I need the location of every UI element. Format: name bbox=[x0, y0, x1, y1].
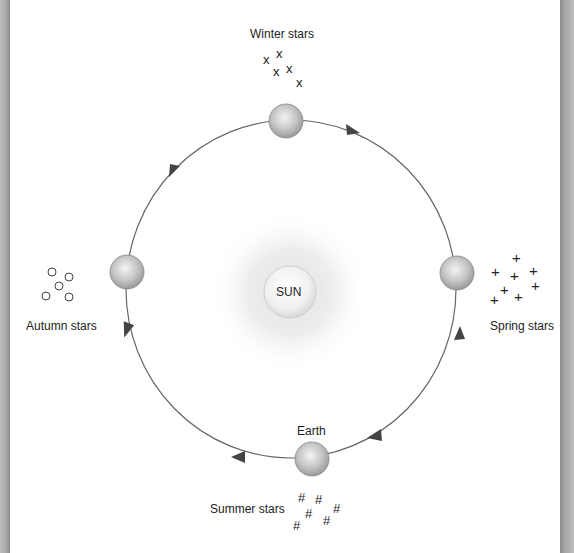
autumn-stars-label: Autumn stars bbox=[26, 319, 97, 333]
earth-autumn-position bbox=[110, 255, 144, 289]
orbit-diagram: xx xx x + +++ ++ ++ ## ## ## bbox=[0, 0, 574, 553]
svg-text:+: + bbox=[531, 277, 540, 294]
earth-winter-position bbox=[269, 104, 303, 138]
svg-text:x: x bbox=[296, 75, 303, 90]
svg-text:+: + bbox=[510, 267, 519, 284]
svg-text:+: + bbox=[500, 281, 509, 298]
svg-text:x: x bbox=[286, 61, 293, 76]
svg-text:+: + bbox=[514, 288, 523, 305]
winter-stars-label: Winter stars bbox=[250, 27, 314, 41]
sun-label: SUN bbox=[276, 285, 301, 299]
spring-stars-label: Spring stars bbox=[490, 319, 554, 333]
svg-text:#: # bbox=[323, 513, 331, 528]
svg-text:x: x bbox=[276, 46, 283, 61]
svg-text:+: + bbox=[491, 263, 500, 280]
svg-text:x: x bbox=[263, 52, 270, 67]
winter-star-markers: xx xx x bbox=[263, 46, 303, 90]
spring-star-markers: + +++ ++ ++ bbox=[490, 249, 540, 308]
svg-text:#: # bbox=[293, 518, 301, 533]
earth-spring-position bbox=[440, 256, 474, 290]
svg-text:#: # bbox=[298, 490, 306, 505]
summer-star-markers: ## ## ## bbox=[293, 490, 341, 533]
arrow-icon bbox=[231, 451, 245, 463]
svg-text:+: + bbox=[490, 291, 499, 308]
svg-text:#: # bbox=[305, 506, 313, 521]
svg-text:#: # bbox=[333, 501, 341, 516]
earth-summer-position bbox=[295, 442, 329, 476]
earth-label: Earth bbox=[297, 424, 326, 438]
svg-text:+: + bbox=[512, 249, 521, 266]
svg-text:x: x bbox=[273, 64, 280, 79]
arrow-icon bbox=[454, 326, 465, 340]
arrow-icon bbox=[169, 164, 180, 177]
arrow-icon bbox=[346, 124, 360, 135]
autumn-star-markers bbox=[42, 268, 73, 301]
arrow-icon bbox=[367, 429, 382, 441]
svg-text:#: # bbox=[315, 492, 323, 507]
summer-stars-label: Summer stars bbox=[210, 502, 285, 516]
arrow-icon bbox=[119, 321, 134, 339]
